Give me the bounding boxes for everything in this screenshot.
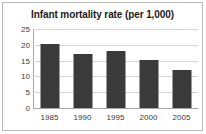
x-tick-label-1985: 1985 [41, 113, 59, 122]
bar-slot [66, 29, 99, 108]
bar-1990[interactable] [73, 54, 92, 108]
y-tick-label: 15 [6, 56, 30, 65]
bar-1995[interactable] [106, 51, 125, 108]
chart-title: Infant mortality rate (per 1,000) [3, 9, 202, 20]
bar-1985[interactable] [40, 44, 59, 108]
x-tick-label-2000: 2000 [140, 113, 158, 122]
y-tick-label: 10 [6, 72, 30, 81]
x-tick-label-1990: 1990 [74, 113, 92, 122]
bar-2000[interactable] [139, 60, 158, 108]
y-axis-tick-labels: 0510152025 [3, 29, 30, 108]
bar-slot [132, 29, 165, 108]
bar-slot [165, 29, 198, 108]
bar-slot [99, 29, 132, 108]
gridline [33, 108, 198, 109]
y-tick-label: 5 [6, 88, 30, 97]
plot-area [33, 29, 198, 108]
bar-2005[interactable] [172, 70, 191, 108]
y-tick-label: 20 [6, 40, 30, 49]
y-tick-label: 0 [6, 104, 30, 113]
x-axis-tick-labels: 19851990199520002005 [33, 113, 198, 127]
x-tick-label-1995: 1995 [107, 113, 125, 122]
chart-frame: Infant mortality rate (per 1,000) 051015… [2, 2, 203, 131]
y-tick-label: 25 [6, 25, 30, 34]
x-tick-label-2005: 2005 [173, 113, 191, 122]
bar-slot [33, 29, 66, 108]
